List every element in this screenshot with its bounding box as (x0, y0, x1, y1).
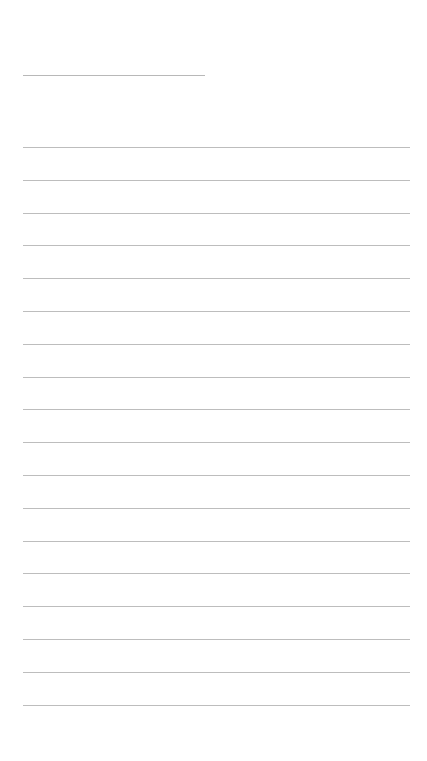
ruled-line (23, 508, 410, 509)
ruled-line (23, 278, 410, 279)
ruled-line (23, 541, 410, 542)
ruled-line (23, 409, 410, 410)
ruled-line (23, 442, 410, 443)
ruled-line (23, 180, 410, 181)
ruled-line (23, 672, 410, 673)
ruled-line (23, 573, 410, 574)
ruled-line (23, 245, 410, 246)
ruled-line (23, 705, 410, 706)
ruled-page (0, 0, 427, 761)
title-line (23, 75, 205, 76)
ruled-line (23, 344, 410, 345)
ruled-line (23, 475, 410, 476)
ruled-line (23, 377, 410, 378)
ruled-line (23, 147, 410, 148)
ruled-line (23, 213, 410, 214)
ruled-line (23, 311, 410, 312)
ruled-line (23, 639, 410, 640)
ruled-line (23, 606, 410, 607)
